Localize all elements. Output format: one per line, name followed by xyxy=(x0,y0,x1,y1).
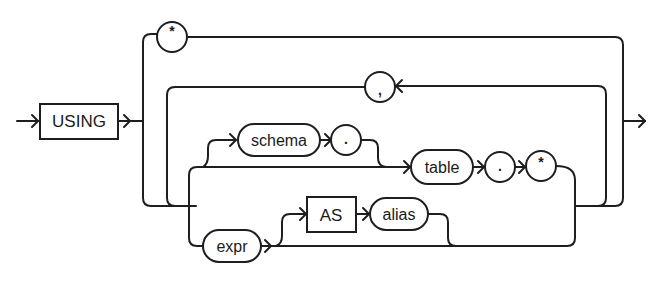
star-symbol: * xyxy=(169,23,175,39)
table-label: table xyxy=(425,159,460,176)
dot-circle-table: . xyxy=(485,152,515,182)
exit-arrow xyxy=(623,115,645,127)
as-branch-entry xyxy=(276,208,306,246)
alias-rejoin xyxy=(428,214,456,246)
comma-circle: , xyxy=(365,72,395,102)
schema-label: schema xyxy=(251,132,307,149)
dot-symbol-table: . xyxy=(498,158,502,174)
using-clause-syntax-diagram: USING * , xyxy=(0,0,657,285)
alias-label: alias xyxy=(383,206,416,223)
outer-left-rail xyxy=(143,34,188,206)
table-to-dot-arrow xyxy=(473,161,484,173)
alias-nonterminal: alias xyxy=(370,198,428,230)
dot-to-star-arrow xyxy=(515,161,525,173)
as-to-alias-arrow xyxy=(356,208,369,220)
schema-rejoin xyxy=(361,140,390,167)
table-entry-arrow xyxy=(305,161,410,173)
entry-arrow xyxy=(17,115,38,127)
using-exit-arrow xyxy=(118,115,143,127)
expr-exit-arrow xyxy=(261,240,452,252)
expr-nonterminal: expr xyxy=(203,230,261,262)
as-keyword: AS xyxy=(320,206,343,225)
expr-label: expr xyxy=(216,238,248,255)
schema-to-dot-arrow xyxy=(320,134,331,146)
top-bypass-line xyxy=(187,37,623,206)
as-keyword-box: AS xyxy=(307,197,356,232)
using-keyword-box: USING xyxy=(40,104,118,139)
table-branch-rejoin xyxy=(452,166,575,246)
star-circle-table: * xyxy=(526,151,556,181)
table-nonterminal: table xyxy=(411,150,473,184)
comma-symbol: , xyxy=(378,82,382,98)
star-circle-top: * xyxy=(157,22,187,52)
star-symbol-table: * xyxy=(538,154,544,170)
dot-circle-schema: . xyxy=(331,125,361,155)
using-keyword: USING xyxy=(52,112,106,131)
schema-nonterminal: schema xyxy=(238,124,320,156)
schema-branch xyxy=(203,134,236,167)
dot-symbol-schema: . xyxy=(344,131,348,147)
